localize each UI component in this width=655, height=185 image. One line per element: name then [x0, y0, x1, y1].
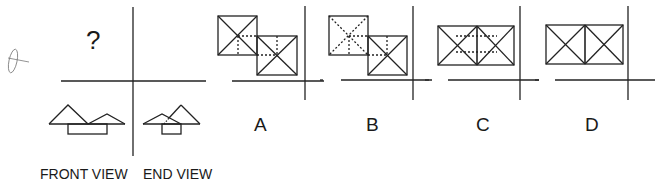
front-view-label: FRONT VIEW [40, 166, 128, 182]
option-c-drawing[interactable] [425, 6, 539, 100]
option-c-label[interactable]: C [476, 114, 490, 136]
option-b-drawing[interactable] [320, 6, 432, 100]
option-d-label[interactable]: D [585, 114, 599, 136]
option-a-drawing[interactable] [218, 6, 324, 100]
front-view-drawing [49, 105, 125, 134]
option-b-label[interactable]: B [366, 114, 379, 136]
option-a-label[interactable]: A [254, 114, 267, 136]
question-mark: ? [86, 25, 100, 56]
end-view-drawing [143, 105, 200, 134]
option-d-drawing[interactable] [535, 6, 655, 100]
end-view-label: END VIEW [143, 166, 212, 182]
pencil-mark-icon [7, 48, 29, 73]
